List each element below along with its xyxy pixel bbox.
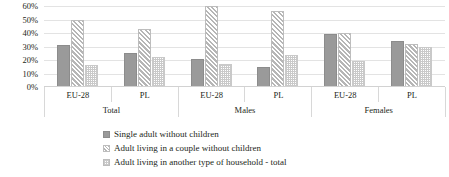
y-axis-tick-label: 40% (22, 29, 38, 38)
y-axis-tick-label: 10% (22, 69, 38, 78)
bar-series-2 (71, 20, 84, 88)
bar-series-3 (352, 61, 365, 87)
bar-series-2 (338, 33, 351, 87)
y-axis-tick-label: 60% (22, 2, 38, 11)
bar-series-2 (405, 44, 418, 87)
bar-cluster (245, 6, 312, 87)
bar-series-3 (85, 65, 98, 87)
group-label: Females (312, 102, 446, 117)
category-label: EU-28 (312, 87, 379, 102)
category-label: EU-28 (45, 87, 112, 102)
legend-swatch-icon (103, 145, 110, 152)
bar-cluster (44, 6, 111, 87)
chart-legend: Single adult without childrenAdult livin… (103, 128, 286, 169)
y-axis: 60%50%40%30%20%10%0% (0, 6, 40, 87)
bar-series-2 (271, 11, 284, 87)
bar-supergroup (44, 6, 178, 87)
legend-label: Single adult without children (114, 130, 219, 139)
bar-series-3 (285, 55, 298, 87)
group-axis: TotalMalesFemales (44, 102, 446, 117)
bar-series-1 (191, 59, 204, 87)
bar-supergroup (311, 6, 445, 87)
bar-chart: 60%50%40%30%20%10%0% EU-28PLEU-28PLEU-28… (0, 0, 449, 177)
y-axis-tick-label: 30% (22, 42, 38, 51)
legend-label: Adult living in another type of househol… (114, 158, 286, 167)
bar-series-3 (152, 57, 165, 87)
y-axis-tick-label: 0% (27, 83, 38, 92)
group-label: Males (179, 102, 313, 117)
bar-cluster (311, 6, 378, 87)
bar-series-3 (219, 64, 232, 87)
legend-swatch-icon (103, 159, 110, 166)
bar-series-1 (257, 67, 270, 87)
bar-series-2 (138, 29, 151, 87)
category-label: PL (112, 87, 179, 102)
legend-swatch-icon (103, 131, 110, 138)
category-label: PL (379, 87, 446, 102)
bar-cluster (178, 6, 245, 87)
y-axis-tick-label: 20% (22, 56, 38, 65)
bar-clusters (44, 6, 445, 87)
legend-item: Single adult without children (103, 128, 286, 141)
legend-item: Adult living in another type of househol… (103, 156, 286, 169)
bar-cluster (111, 6, 178, 87)
bar-series-1 (57, 45, 70, 87)
legend-item: Adult living in a couple without childre… (103, 142, 286, 155)
bar-series-2 (205, 6, 218, 87)
bar-supergroup (178, 6, 312, 87)
group-label: Total (45, 102, 179, 117)
category-axis: EU-28PLEU-28PLEU-28PL (44, 87, 446, 102)
bar-series-3 (419, 47, 432, 88)
bar-series-1 (391, 41, 404, 87)
category-label: EU-28 (179, 87, 246, 102)
legend-label: Adult living in a couple without childre… (114, 144, 261, 153)
plot-area (44, 6, 445, 87)
category-label: PL (245, 87, 312, 102)
y-axis-tick-label: 50% (22, 15, 38, 24)
bar-series-1 (324, 34, 337, 87)
bar-series-1 (124, 53, 137, 87)
bar-cluster (378, 6, 445, 87)
